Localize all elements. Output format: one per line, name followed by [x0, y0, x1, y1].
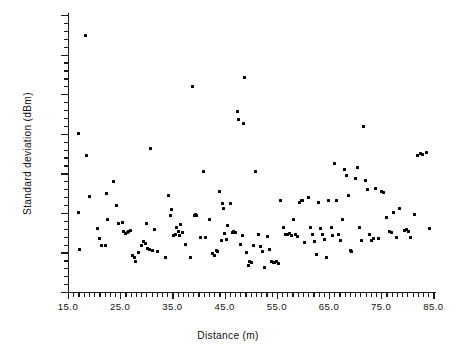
x-axis-tick: [136, 292, 137, 297]
data-point: [368, 233, 371, 236]
y-axis-minor-tick: [64, 189, 69, 190]
y-axis-major-tick: [61, 213, 68, 214]
data-point: [372, 237, 375, 240]
data-point: [144, 242, 147, 245]
data-point: [225, 238, 228, 241]
x-axis-tick: [386, 292, 387, 297]
y-axis-minor-tick: [64, 284, 69, 285]
x-axis-tick: [345, 292, 346, 297]
x-axis-tick-label: 55.0: [267, 301, 287, 312]
x-axis-tick: [225, 292, 226, 299]
data-point: [242, 122, 245, 125]
data-point: [145, 222, 148, 225]
x-axis-tick: [261, 292, 262, 297]
data-point: [164, 256, 167, 259]
data-point: [392, 211, 395, 214]
x-axis-title: Distance (m): [0, 330, 456, 341]
data-point: [105, 192, 108, 195]
data-point: [77, 211, 80, 214]
data-point: [88, 195, 91, 198]
y-axis-minor-tick: [64, 47, 69, 48]
x-axis-tick: [277, 292, 278, 299]
y-axis-minor-tick: [64, 126, 69, 127]
data-point: [266, 235, 269, 238]
data-point: [121, 221, 124, 224]
y-axis-minor-tick: [64, 221, 69, 222]
data-point: [358, 226, 361, 229]
data-point: [309, 226, 312, 229]
y-axis-minor-tick: [64, 78, 69, 79]
x-axis-tick: [99, 292, 100, 297]
x-axis-tick: [198, 292, 199, 297]
data-point: [156, 250, 159, 253]
x-axis-tick: [360, 292, 361, 297]
data-point: [330, 226, 333, 229]
data-point: [220, 239, 223, 242]
data-point: [321, 233, 324, 236]
x-axis-tick: [146, 292, 147, 297]
x-axis-tick: [329, 292, 330, 299]
x-axis-tick: [324, 292, 325, 297]
data-point: [315, 253, 318, 256]
y-axis-major-tick: [61, 173, 68, 174]
x-axis-tick: [366, 292, 367, 297]
data-point: [140, 244, 143, 247]
x-axis-tick: [407, 292, 408, 297]
data-point: [382, 191, 385, 194]
data-point: [78, 248, 81, 251]
data-point: [151, 249, 154, 252]
x-axis-tick: [413, 292, 414, 297]
data-point: [425, 151, 428, 154]
data-point: [319, 227, 322, 230]
x-axis-tick: [287, 292, 288, 297]
x-axis-tick: [251, 292, 252, 297]
data-point: [179, 223, 182, 226]
x-axis-tick: [89, 292, 90, 297]
y-axis-minor-tick: [64, 165, 69, 166]
data-point: [115, 204, 118, 207]
x-axis-tick: [157, 292, 158, 297]
data-point: [345, 174, 348, 177]
x-axis-tick-label: 75.0: [371, 301, 391, 312]
x-axis-tick: [209, 292, 210, 297]
x-axis-tick: [183, 292, 184, 297]
data-point: [390, 231, 393, 234]
data-point: [263, 266, 266, 269]
x-axis-tick: [204, 292, 205, 297]
x-axis-tick: [167, 292, 168, 297]
x-axis-tick: [235, 292, 236, 297]
data-point: [335, 199, 338, 202]
data-point: [241, 234, 244, 237]
y-axis-minor-tick: [64, 86, 69, 87]
x-axis-tick: [319, 292, 320, 297]
x-axis-tick: [214, 292, 215, 297]
data-point: [395, 236, 398, 239]
x-axis-tick: [172, 292, 173, 299]
x-axis-tick: [428, 292, 429, 297]
y-axis-ticks: [68, 15, 436, 292]
data-point: [199, 236, 202, 239]
x-axis-tick: [141, 292, 142, 297]
x-axis-tick: [68, 292, 69, 299]
y-axis-major-tick: [61, 252, 68, 253]
data-point: [354, 177, 357, 180]
x-axis-tick: [178, 292, 179, 297]
y-axis-minor-tick: [64, 23, 69, 24]
data-point: [317, 201, 320, 204]
data-point: [268, 248, 271, 251]
data-point: [250, 261, 253, 264]
x-axis-tick: [230, 292, 231, 297]
data-point: [385, 216, 388, 219]
y-axis-minor-tick: [64, 197, 69, 198]
data-point: [149, 147, 152, 150]
x-axis-tick: [402, 292, 403, 297]
y-axis-minor-tick: [64, 118, 69, 119]
x-axis-tick-labels: 15.025.035.045.055.065.075.085.0: [68, 301, 437, 315]
data-point: [77, 132, 80, 135]
x-axis-tick: [418, 292, 419, 297]
data-point: [339, 239, 342, 242]
data-point: [290, 234, 293, 237]
x-axis-tick: [152, 292, 153, 297]
data-point: [331, 234, 334, 237]
x-axis-tick-label: 15.0: [58, 301, 78, 312]
